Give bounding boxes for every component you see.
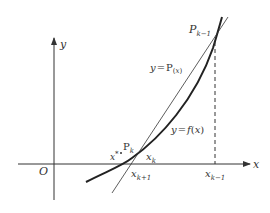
x-axis-label: x — [253, 158, 260, 171]
origin-label: O — [39, 165, 48, 178]
point-label-p-prev: Pk−1 — [188, 23, 211, 38]
secant-label: y=P(x) — [149, 62, 182, 75]
secant-line — [112, 17, 228, 193]
point-label-p-curr: Pk — [123, 141, 134, 155]
function-label: y=f(x) — [170, 124, 204, 135]
tick-label-x-k: xk — [146, 151, 156, 165]
secant-method-diagram: y x O Pk−1 y=P(x) y=f(x) Pk x* xk xk+1 x… — [0, 0, 270, 213]
tick-label-x-k-minus-1: xk−1 — [205, 168, 225, 182]
tick-label-x-k-plus-1: xk+1 — [131, 168, 151, 182]
y-axis-label: y — [59, 38, 67, 51]
root-label: x* — [110, 150, 119, 162]
root-dot — [120, 152, 122, 154]
